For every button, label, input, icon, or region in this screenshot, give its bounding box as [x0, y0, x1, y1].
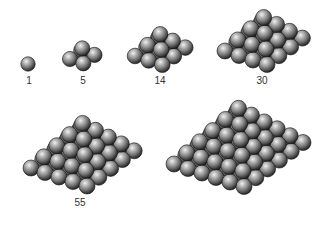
- sphere: [23, 160, 39, 176]
- sphere: [155, 57, 171, 73]
- pyramid-55: [23, 115, 142, 194]
- sphere: [153, 42, 169, 58]
- sphere: [49, 138, 65, 154]
- sphere: [231, 48, 247, 64]
- sphere: [63, 142, 79, 158]
- pyramid-unlabeled: [166, 100, 311, 194]
- sphere: [208, 170, 224, 186]
- sphere: [206, 138, 222, 154]
- sphere: [65, 174, 81, 190]
- sphere: [179, 145, 195, 161]
- sphere: [62, 127, 78, 143]
- pyramid-5: [62, 41, 102, 71]
- sphere: [141, 53, 157, 69]
- sphere: [37, 165, 53, 181]
- sphere: [234, 147, 250, 163]
- sphere: [220, 143, 236, 159]
- count-label-55: 55: [74, 197, 85, 208]
- sphere: [75, 41, 90, 56]
- sphere: [192, 134, 208, 150]
- sphere: [79, 178, 95, 194]
- sphere: [231, 100, 247, 116]
- sphere: [62, 51, 77, 66]
- sphere: [75, 115, 91, 131]
- sphere: [244, 36, 260, 52]
- sphere: [76, 131, 92, 147]
- sphere: [77, 147, 93, 163]
- sphere: [230, 32, 246, 48]
- sphere: [258, 41, 274, 57]
- sphere: [51, 169, 67, 185]
- pyramid-1: [21, 57, 35, 71]
- count-label-5: 5: [80, 75, 86, 86]
- count-label-1: 1: [26, 75, 32, 86]
- sphere: [217, 43, 233, 59]
- sphere: [222, 174, 238, 190]
- sphere: [205, 123, 221, 139]
- sphere: [127, 48, 143, 64]
- sphere: [78, 162, 94, 178]
- sphere: [233, 132, 249, 148]
- sphere: [259, 57, 275, 73]
- sphere: [36, 149, 52, 165]
- sphere: [256, 10, 272, 26]
- sphere: [232, 116, 248, 132]
- sphere: [236, 179, 252, 195]
- count-label-14: 14: [154, 75, 165, 86]
- pyramid-14: [127, 27, 193, 73]
- sphere: [76, 56, 91, 71]
- sphere: [21, 57, 35, 71]
- pyramid-30: [217, 10, 310, 73]
- sphere: [207, 154, 223, 170]
- sphere: [257, 25, 273, 41]
- sphere: [64, 158, 80, 174]
- sphere: [193, 149, 209, 165]
- pyramids-canvas: [0, 0, 326, 225]
- sphere: [243, 21, 259, 37]
- sphere: [180, 161, 196, 177]
- sphere: [166, 156, 182, 172]
- sphere: [221, 158, 237, 174]
- sphere: [219, 127, 235, 143]
- sphere: [194, 165, 210, 181]
- sphere: [50, 153, 66, 169]
- square-pyramidal-numbers-diagram: 1 5 14 30 55: [0, 0, 326, 225]
- sphere: [245, 52, 261, 68]
- sphere: [140, 37, 156, 53]
- sphere: [152, 27, 168, 43]
- sphere: [218, 111, 234, 127]
- count-label-30: 30: [256, 75, 267, 86]
- sphere: [235, 163, 251, 179]
